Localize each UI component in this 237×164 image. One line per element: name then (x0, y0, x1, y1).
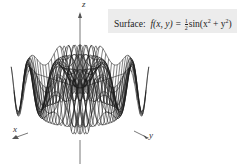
fraction-half: 12 (185, 18, 188, 31)
caption-sin: sin(x (189, 19, 208, 29)
function-caption: Surface: f(x, y) = 12sin(x2 + y2) (108, 9, 237, 33)
z-axis-label: z (82, 0, 86, 9)
caption-prefix: Surface: (114, 19, 146, 29)
x-axis-label: x (13, 124, 17, 134)
caption-lhs: f(x, y) = (150, 19, 181, 29)
y-axis-label: y (149, 130, 153, 140)
